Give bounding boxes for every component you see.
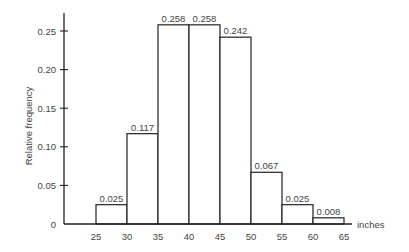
bar-value-label: 0.117 (131, 122, 154, 133)
histogram-bar (189, 25, 220, 224)
y-tick-label: 0.15 (38, 103, 57, 114)
histogram-bar (282, 205, 313, 224)
x-tick-label: 45 (215, 231, 226, 242)
histogram-bar (251, 172, 282, 224)
x-axis-label: inches (357, 219, 385, 230)
y-tick-label: 0.25 (38, 26, 57, 37)
x-ticks: 253035404550556065 (91, 231, 350, 242)
histogram-bar (313, 218, 344, 224)
y-tick-label: 0.05 (38, 180, 57, 191)
bar-value-label: 0.258 (193, 13, 217, 24)
y-tick-label: 0.10 (38, 141, 57, 152)
histogram-bar (158, 25, 189, 224)
histogram-chart: 0.0250.1170.2580.2580.2420.0670.0250.008… (0, 0, 409, 252)
bar-value-label: 0.258 (162, 13, 186, 24)
x-tick-label: 65 (339, 231, 350, 242)
histogram-bar (220, 37, 251, 224)
histogram-bar (127, 134, 158, 224)
y-axis-label: Relative frequency (23, 86, 34, 165)
x-tick-label: 30 (122, 231, 133, 242)
bar-value-label: 0.242 (224, 25, 248, 36)
bar-value-label: 0.067 (255, 160, 279, 171)
bar-value-label: 0.008 (317, 206, 341, 217)
x-tick-label: 35 (153, 231, 164, 242)
bar-value-label: 0.025 (286, 193, 310, 204)
bar-value-label: 0.025 (100, 193, 124, 204)
x-tick-label: 55 (277, 231, 288, 242)
x-tick-label: 25 (91, 231, 102, 242)
x-tick-label: 40 (184, 231, 195, 242)
x-tick-label: 50 (246, 231, 257, 242)
y-tick-label: 0.20 (38, 64, 57, 75)
histogram-bar (96, 205, 127, 224)
x-tick-label: 60 (308, 231, 319, 242)
y-tick-label: 0 (51, 219, 56, 230)
